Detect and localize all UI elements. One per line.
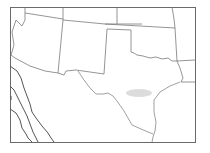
coastline-3 [10, 109, 32, 142]
state-border-newmexico-texas-south [58, 70, 104, 75]
state-border-newmexico-texas [104, 29, 107, 74]
red-river-border [131, 30, 177, 61]
border-arizona-mexico [15, 58, 58, 73]
state-border-utah-arizona [25, 13, 63, 19]
state-border-nevada-arizona [11, 7, 25, 58]
state-border-arkansas-louisiana [177, 61, 195, 82]
state-border-colorado-newmexico [63, 20, 142, 24]
state-border-kansas-missouri [172, 7, 175, 28]
texas-gulf-coast [152, 82, 180, 142]
state-border-oklahoma-arkansas [175, 28, 195, 61]
rio-grande [78, 71, 153, 134]
highlight-region-central-texas [126, 89, 152, 97]
map [0, 0, 210, 153]
state-border-arizona-newmexico [58, 7, 63, 73]
state-border-kansas-oklahoma [105, 24, 175, 28]
texas-panhandle-top [107, 29, 131, 30]
